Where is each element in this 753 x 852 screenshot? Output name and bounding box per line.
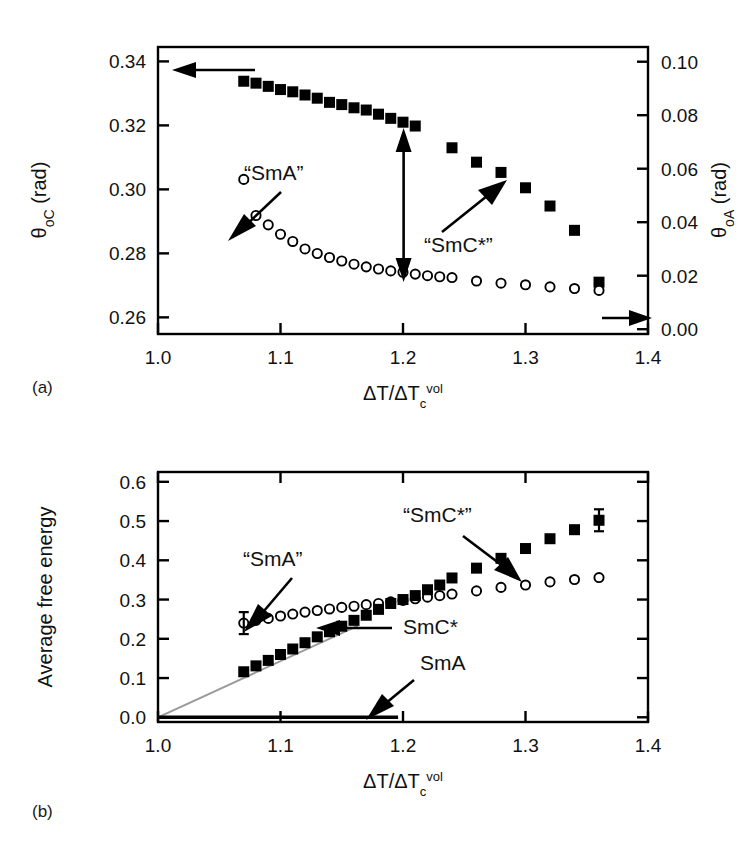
data-point-circle-a xyxy=(447,273,456,282)
data-point-square-a xyxy=(496,167,507,178)
data-point-circle-b xyxy=(472,586,481,595)
svg-text:Average free energy: Average free energy xyxy=(34,507,56,688)
data-point-circle-a xyxy=(288,237,297,246)
data-point-circle-b xyxy=(521,580,530,589)
annotation-sma-line-arrow-b xyxy=(366,680,414,720)
annotation-sma-a: “SmA” xyxy=(244,161,304,184)
data-point-circle-b xyxy=(570,575,579,584)
y-tick-label-left-a: 0.26 xyxy=(109,307,146,328)
y-tick-label-left-a: 0.28 xyxy=(109,243,146,264)
data-point-circle-a xyxy=(423,271,432,280)
data-point-square-a xyxy=(569,225,580,236)
data-point-square-b xyxy=(361,610,372,621)
y-tick-label-right-a: 0.10 xyxy=(661,52,698,73)
data-point-square-b xyxy=(434,580,445,591)
data-point-square-a xyxy=(263,81,274,92)
data-point-circle-a xyxy=(276,230,285,239)
data-point-square-a xyxy=(324,97,335,108)
data-point-square-b xyxy=(287,644,298,655)
y-tick-label-left-a: 0.30 xyxy=(109,179,146,200)
phase-gap-double-arrow-a xyxy=(396,128,412,282)
panel-b: 1.01.11.21.31.40.00.10.20.30.40.50.6Aver… xyxy=(0,426,753,852)
svg-text:θoA (rad): θoA (rad) xyxy=(708,162,737,238)
right-axis-pointer-arrow-a xyxy=(602,310,652,326)
y-axis-title-left-a: θoC (rad) xyxy=(28,162,57,239)
panel-b-label: (b) xyxy=(32,802,53,822)
data-point-square-a xyxy=(410,121,421,132)
data-point-square-b xyxy=(300,637,311,648)
annotation-smcstar-a: “SmC*” xyxy=(424,233,493,256)
x-axis-title-b: ΔT/ΔTcvol xyxy=(363,769,443,799)
data-point-square-a xyxy=(312,93,323,104)
data-point-square-a xyxy=(349,102,360,113)
data-point-circle-a xyxy=(386,266,395,275)
data-point-square-b xyxy=(471,563,482,574)
x-tick-label-a: 1.1 xyxy=(267,347,293,368)
data-point-circle-a xyxy=(374,264,383,273)
data-point-square-b xyxy=(520,543,531,554)
figure-two-panel-plot: 1.01.11.21.31.40.260.280.300.320.340.000… xyxy=(0,0,753,852)
x-tick-label-b: 1.3 xyxy=(512,735,538,756)
data-point-square-a xyxy=(545,201,556,212)
data-point-square-a xyxy=(238,76,249,87)
y-tick-label-right-a: 0.04 xyxy=(661,212,698,233)
annotation-sma-b: “SmA” xyxy=(243,547,303,570)
series-theta-oa-circles xyxy=(239,175,603,295)
data-point-square-a xyxy=(471,157,482,168)
data-point-square-a xyxy=(287,86,298,97)
data-point-square-b xyxy=(545,533,556,544)
data-point-circle-a xyxy=(362,262,371,271)
data-point-square-b xyxy=(410,590,421,601)
data-point-circle-a xyxy=(570,284,579,293)
data-point-square-b xyxy=(275,649,286,660)
x-tick-label-a: 1.3 xyxy=(512,347,538,368)
annotation-smcstar-line-b: SmC* xyxy=(403,615,458,638)
data-point-circle-a xyxy=(472,276,481,285)
y-tick-label-left-a: 0.32 xyxy=(109,115,146,136)
x-tick-label-b: 1.4 xyxy=(635,735,662,756)
data-point-square-a xyxy=(251,78,262,89)
data-point-circle-a xyxy=(545,282,554,291)
data-point-square-a xyxy=(275,84,286,95)
data-point-circle-a xyxy=(349,260,358,269)
data-point-circle-b xyxy=(594,573,603,582)
y-tick-label-b: 0.1 xyxy=(120,668,146,689)
data-point-square-b xyxy=(238,666,249,677)
panel-b-canvas: 1.01.11.21.31.40.00.10.20.30.40.50.6Aver… xyxy=(0,426,753,852)
svg-text:θoC (rad): θoC (rad) xyxy=(28,162,57,239)
y-tick-label-right-a: 0.02 xyxy=(661,266,698,287)
data-point-circle-a xyxy=(594,286,603,295)
data-point-square-a xyxy=(520,182,531,193)
y-tick-label-b: 0.0 xyxy=(120,707,146,728)
data-point-square-a xyxy=(447,142,458,153)
y-tick-label-b: 0.4 xyxy=(120,550,147,571)
data-point-circle-a xyxy=(264,220,273,229)
x-tick-label-a: 1.2 xyxy=(390,347,416,368)
x-tick-label-b: 1.1 xyxy=(267,735,293,756)
data-point-circle-b xyxy=(447,589,456,598)
data-point-square-a xyxy=(361,105,372,116)
y-tick-label-right-a: 0.06 xyxy=(661,159,698,180)
data-point-circle-b xyxy=(496,583,505,592)
data-point-circle-a xyxy=(337,256,346,265)
annotation-smcstar-arrow-a xyxy=(442,180,507,232)
data-point-square-b xyxy=(447,572,458,583)
x-tick-label-a: 1.4 xyxy=(635,347,662,368)
data-point-square-a xyxy=(373,109,384,120)
panel-a-canvas: 1.01.11.21.31.40.260.280.300.320.340.000… xyxy=(0,0,753,426)
data-point-circle-b xyxy=(288,609,297,618)
data-point-square-a xyxy=(300,89,311,100)
data-point-square-a xyxy=(398,117,409,128)
annotation-smcstar-quoted-b: “SmC*” xyxy=(403,503,472,526)
data-point-square-a xyxy=(336,99,347,110)
data-point-square-b xyxy=(373,604,384,615)
y-tick-label-b: 0.2 xyxy=(120,629,146,650)
x-tick-label-a: 1.0 xyxy=(145,347,171,368)
data-point-square-b xyxy=(349,615,360,626)
data-point-circle-b xyxy=(313,606,322,615)
y-tick-label-left-a: 0.34 xyxy=(109,51,146,72)
x-axis-title-a: ΔT/ΔTcvol xyxy=(363,381,443,411)
y-axis-title-b: Average free energy xyxy=(34,507,56,688)
data-point-circle-a xyxy=(313,249,322,258)
data-point-circle-b xyxy=(325,604,334,613)
